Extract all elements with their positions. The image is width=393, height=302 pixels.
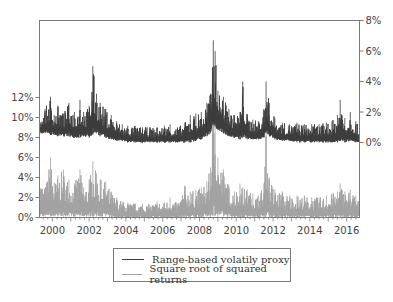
x-tick-label: 2016 — [334, 225, 359, 236]
x-tick-label: 2006 — [150, 225, 175, 236]
right-tick-label: 2% — [366, 107, 382, 118]
left-tick-label: 10% — [11, 112, 33, 123]
left-tick-label: 6% — [18, 152, 34, 163]
right-tick-label: 6% — [366, 46, 382, 57]
x-tick-label: 2000 — [40, 225, 65, 236]
x-tick-label: 2004 — [113, 225, 138, 236]
x-tick-label: 2014 — [297, 225, 322, 236]
legend-item-squared-returns: Square root of squared returns — [122, 267, 290, 281]
series-layer — [40, 40, 360, 217]
range-based-volatility-line — [40, 40, 360, 142]
right-tick-label: 0% — [366, 137, 382, 148]
x-axis: 200020022004200620082010201220142016 — [40, 218, 360, 236]
left-tick-label: 0% — [18, 212, 34, 223]
left-tick-label: 12% — [11, 92, 33, 103]
dark-line-swatch-icon — [122, 259, 144, 260]
legend: Range-based volatily proxy Square root o… — [113, 248, 291, 282]
x-tick-label: 2008 — [187, 225, 212, 236]
left-tick-label: 4% — [18, 172, 34, 183]
legend-label: Square root of squared returns — [150, 263, 290, 285]
right-axis: 0%2%4%6%8% — [360, 15, 382, 148]
right-tick-label: 8% — [366, 15, 382, 26]
left-tick-label: 8% — [18, 132, 34, 143]
left-tick-label: 2% — [18, 192, 34, 203]
x-tick-label: 2010 — [224, 225, 249, 236]
x-tick-label: 2002 — [76, 225, 101, 236]
x-tick-label: 2012 — [260, 225, 285, 236]
right-tick-label: 4% — [366, 76, 382, 87]
left-axis: 0%2%4%6%8%10%12% — [11, 92, 39, 223]
light-line-swatch-icon — [122, 274, 142, 275]
volatility-chart: 0%2%4%6%8%10%12% 0%2%4%6%8% 200020022004… — [0, 0, 393, 240]
